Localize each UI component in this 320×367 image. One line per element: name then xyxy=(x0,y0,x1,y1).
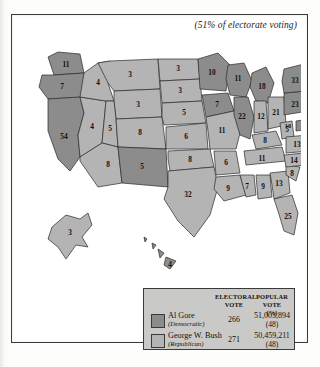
legend-header-electoral-line2: VOTE xyxy=(225,301,244,308)
ev-label-al: 9 xyxy=(261,182,265,191)
state-hi xyxy=(144,237,147,242)
figure-frame: (51% of electorate voting) xyxy=(11,14,308,343)
ev-label-oh: 21 xyxy=(272,108,280,117)
ev-label-sd: 3 xyxy=(178,86,182,95)
ev-label-va: 13 xyxy=(293,140,301,149)
state-hi-c xyxy=(158,249,164,258)
ev-label-ok: 8 xyxy=(188,155,192,164)
ev-label-ky: 8 xyxy=(263,136,267,145)
ev-label-ga: 13 xyxy=(275,179,283,188)
ev-label-co: 8 xyxy=(138,128,142,137)
legend-header-electoral: ELECTORAL VOTE xyxy=(215,293,253,309)
ev-label-mi: 18 xyxy=(258,82,266,91)
legend-header-popular-line1: POPULAR VOTE xyxy=(256,293,288,308)
ev-label-ak: 3 xyxy=(68,228,72,237)
legend-row-gore: Al Gore (Democratic) 266 51,003,894 (48) xyxy=(144,312,296,332)
ev-label-ny: 33 xyxy=(291,76,299,85)
ev-label-az: 8 xyxy=(106,160,110,169)
legend-electoral-gore: 266 xyxy=(215,315,253,324)
legend-row-bush: George W. Bush (Republican) 271 50,459,2… xyxy=(144,332,296,352)
ev-label-wy: 3 xyxy=(136,100,140,109)
ev-label-ne: 5 xyxy=(182,108,186,117)
legend-swatch-bush xyxy=(151,334,165,348)
ev-label-wi: 11 xyxy=(235,74,242,83)
legend-electoral-bush: 271 xyxy=(215,335,253,344)
state-md xyxy=(296,119,301,131)
ev-label-nv: 4 xyxy=(90,122,94,131)
legend-popular-bush: 50,459,211 (48) xyxy=(249,332,295,349)
ev-label-ms: 7 xyxy=(245,182,249,191)
ev-label-ut: 5 xyxy=(108,124,112,133)
state-tx xyxy=(164,167,218,237)
ev-label-wa: 11 xyxy=(63,60,70,69)
ev-label-ca: 54 xyxy=(60,132,68,141)
ev-label-la: 9 xyxy=(226,184,230,193)
ev-label-ia: 7 xyxy=(215,100,219,109)
ev-label-pa: 23 xyxy=(291,100,299,109)
legend-popular-pct-bush: (48) xyxy=(266,340,279,349)
ev-label-nc: 14 xyxy=(290,156,298,165)
legend-popular-pct-gore: (48) xyxy=(266,320,279,329)
figure-page: (51% of electorate voting) xyxy=(0,0,320,367)
us-map-svg: 11 7 54 4 4 3 3 5 8 8 5 3 3 5 6 8 32 10 … xyxy=(18,39,301,289)
ev-label-mt: 3 xyxy=(128,70,132,79)
ev-label-sc: 8 xyxy=(290,169,294,178)
ev-label-nm: 5 xyxy=(140,162,144,171)
legend-popular-gore: 51,003,894 (48) xyxy=(249,312,295,329)
ev-label-mo: 11 xyxy=(219,126,226,135)
state-ky xyxy=(252,131,282,149)
ev-label-mn: 10 xyxy=(208,68,216,77)
ev-label-il: 22 xyxy=(238,112,246,121)
legend-swatch-gore xyxy=(151,314,165,328)
ev-label-ks: 6 xyxy=(184,132,188,141)
ev-label-ar: 6 xyxy=(224,158,228,167)
state-hi-b xyxy=(152,243,156,249)
ev-label-md: 10 xyxy=(285,122,291,129)
ev-label-tx: 32 xyxy=(184,190,192,199)
ev-label-fl: 25 xyxy=(284,212,292,221)
legend-table: ELECTORAL VOTE POPULAR VOTE (%) Al Gore … xyxy=(143,288,295,350)
ev-label-id: 4 xyxy=(96,78,100,87)
ev-label-in: 12 xyxy=(257,112,265,121)
ev-label-nd: 3 xyxy=(176,64,180,73)
ev-label-tn: 11 xyxy=(259,154,266,163)
ev-label-hi: 4 xyxy=(168,260,172,269)
ev-label-or: 7 xyxy=(60,82,64,91)
